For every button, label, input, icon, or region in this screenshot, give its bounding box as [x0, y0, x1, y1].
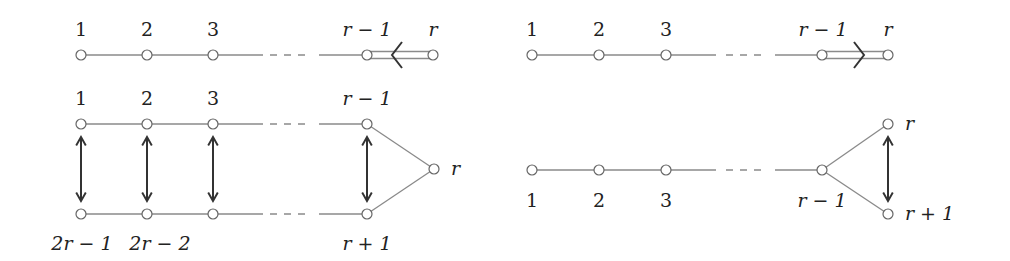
diagram-top-right: 1 2 3 r − 1 r — [526, 18, 895, 68]
label-r-minus-1: r − 1 — [342, 18, 391, 40]
label-2r-minus-2: 2r − 2 — [128, 232, 190, 254]
label-r: r — [905, 112, 916, 134]
node-r — [428, 50, 438, 60]
label-r: r — [451, 157, 462, 179]
node-r-minus-1 — [817, 165, 827, 175]
label-3: 3 — [207, 87, 219, 109]
label-2r-minus-1: 2r − 1 — [50, 232, 112, 254]
node-3 — [208, 119, 218, 129]
label-r-plus-1: r + 1 — [905, 202, 954, 224]
node-2 — [594, 50, 604, 60]
node-2 — [594, 165, 604, 175]
label-2: 2 — [141, 87, 153, 109]
node-3 — [661, 165, 671, 175]
node-r-minus-1 — [362, 119, 372, 129]
label-r-minus-1: r − 1 — [797, 189, 846, 211]
node-2r-minus-1 — [76, 209, 86, 219]
label-2: 2 — [593, 18, 605, 40]
node-r — [429, 164, 439, 174]
label-3: 3 — [660, 18, 672, 40]
diagram-bottom-left: 1 2 3 r − 1 2r − 1 2r − 2 r + 1 r — [50, 87, 462, 254]
node-1 — [76, 50, 86, 60]
node-2r-minus-2 — [142, 209, 152, 219]
node-r-minus-1 — [362, 50, 372, 60]
label-3: 3 — [207, 18, 219, 40]
node-1 — [527, 50, 537, 60]
dynkin-diagrams-figure: 1 2 3 r − 1 r 1 2 3 r − 1 r — [0, 0, 1010, 261]
node-1 — [527, 165, 537, 175]
node-r — [883, 50, 893, 60]
node-r — [883, 119, 893, 129]
label-3: 3 — [660, 189, 672, 211]
node-3 — [208, 50, 218, 60]
label-r: r — [428, 18, 439, 40]
node-r-plus-1 — [883, 209, 893, 219]
label-r-minus-1: r − 1 — [798, 18, 847, 40]
arrow-left-icon — [392, 42, 402, 68]
arrow-right-icon — [854, 42, 864, 68]
label-1: 1 — [75, 18, 87, 40]
label-2: 2 — [141, 18, 153, 40]
label-r-minus-1: r − 1 — [342, 87, 391, 109]
diagram-bottom-right: 1 2 3 r − 1 r r + 1 — [526, 112, 954, 224]
node-2r-minus-3 — [208, 209, 218, 219]
node-2 — [142, 50, 152, 60]
label-1: 1 — [75, 87, 87, 109]
node-1 — [76, 119, 86, 129]
label-1: 1 — [526, 18, 538, 40]
node-r-minus-1 — [817, 50, 827, 60]
label-r-plus-1: r + 1 — [342, 232, 391, 254]
node-r-plus-1 — [362, 209, 372, 219]
node-3 — [661, 50, 671, 60]
diagram-top-left: 1 2 3 r − 1 r — [75, 18, 440, 68]
label-2: 2 — [593, 189, 605, 211]
node-2 — [142, 119, 152, 129]
label-1: 1 — [526, 189, 538, 211]
label-r: r — [883, 18, 894, 40]
